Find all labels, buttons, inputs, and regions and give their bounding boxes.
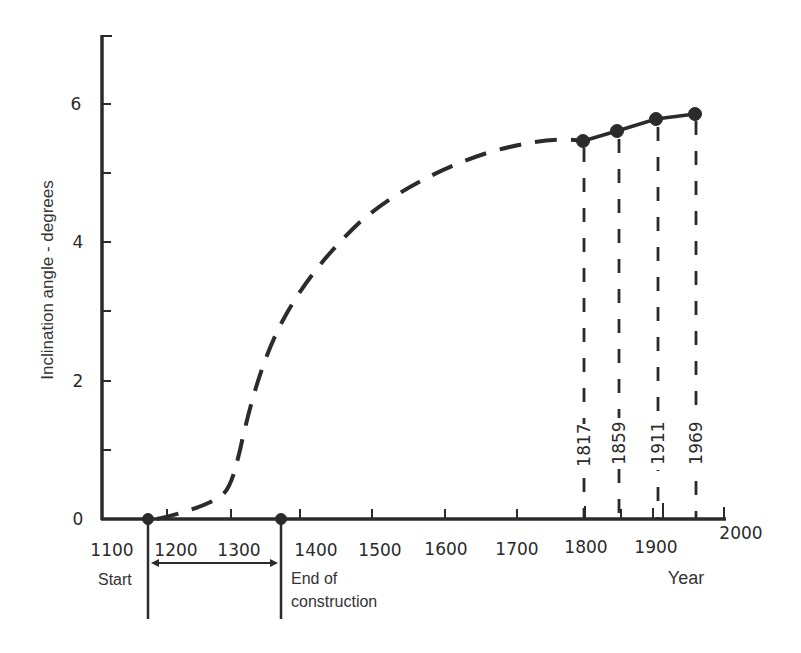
- point-1911: [650, 113, 663, 126]
- x-tick-1800: 1800: [564, 537, 607, 557]
- x-tick-1500: 1500: [358, 540, 401, 560]
- x-tick-labels: 1100 1200 1300 1400 1500 1600 1700 1800 …: [90, 523, 762, 560]
- year-label-1817: 1817: [574, 423, 594, 466]
- x-tick-1200: 1200: [154, 540, 197, 560]
- y-tick-2: 2: [73, 371, 84, 391]
- year-labels: 1817 1859 1911 1969: [574, 418, 706, 470]
- year-label-1969: 1969: [686, 421, 706, 464]
- start-dot: [143, 514, 154, 525]
- x-tick-1600: 1600: [424, 539, 467, 559]
- y-tick-0: 0: [73, 509, 84, 529]
- x-tick-1700: 1700: [495, 539, 538, 559]
- y-tick-labels: 0 2 4 6: [71, 94, 84, 529]
- x-tick-2000: 2000: [719, 523, 762, 543]
- y-axis-label: Inclination angle - degrees: [38, 180, 57, 379]
- y-tick-6: 6: [71, 94, 82, 114]
- x-tick-1400: 1400: [294, 540, 337, 560]
- end-label-line2: construction: [291, 593, 377, 610]
- x-axis: [101, 503, 726, 519]
- y-axis: [102, 35, 112, 520]
- arrow-head-right-icon: [270, 559, 278, 567]
- construction-markers: [143, 514, 287, 620]
- x-tick-1300: 1300: [217, 540, 260, 560]
- start-label: Start: [98, 571, 132, 588]
- inclination-chart: 0 2 4 6 Inclination angle - degrees 1100…: [0, 0, 801, 653]
- arrow-head-left-icon: [151, 559, 159, 567]
- point-1817: [577, 135, 590, 148]
- measured-series: [577, 108, 702, 148]
- year-label-1859: 1859: [609, 421, 629, 464]
- point-1969: [689, 108, 702, 121]
- x-axis-label: Year: [668, 568, 704, 588]
- x-tick-1100: 1100: [90, 540, 133, 560]
- year-label-1911: 1911: [648, 421, 668, 464]
- end-label-line1: End of: [291, 570, 338, 587]
- point-1859: [611, 125, 624, 138]
- end-dot: [276, 514, 287, 525]
- x-tick-1900: 1900: [634, 537, 677, 557]
- y-tick-4: 4: [73, 232, 84, 252]
- drop-lines: [584, 121, 696, 519]
- estimated-curve: [157, 139, 583, 519]
